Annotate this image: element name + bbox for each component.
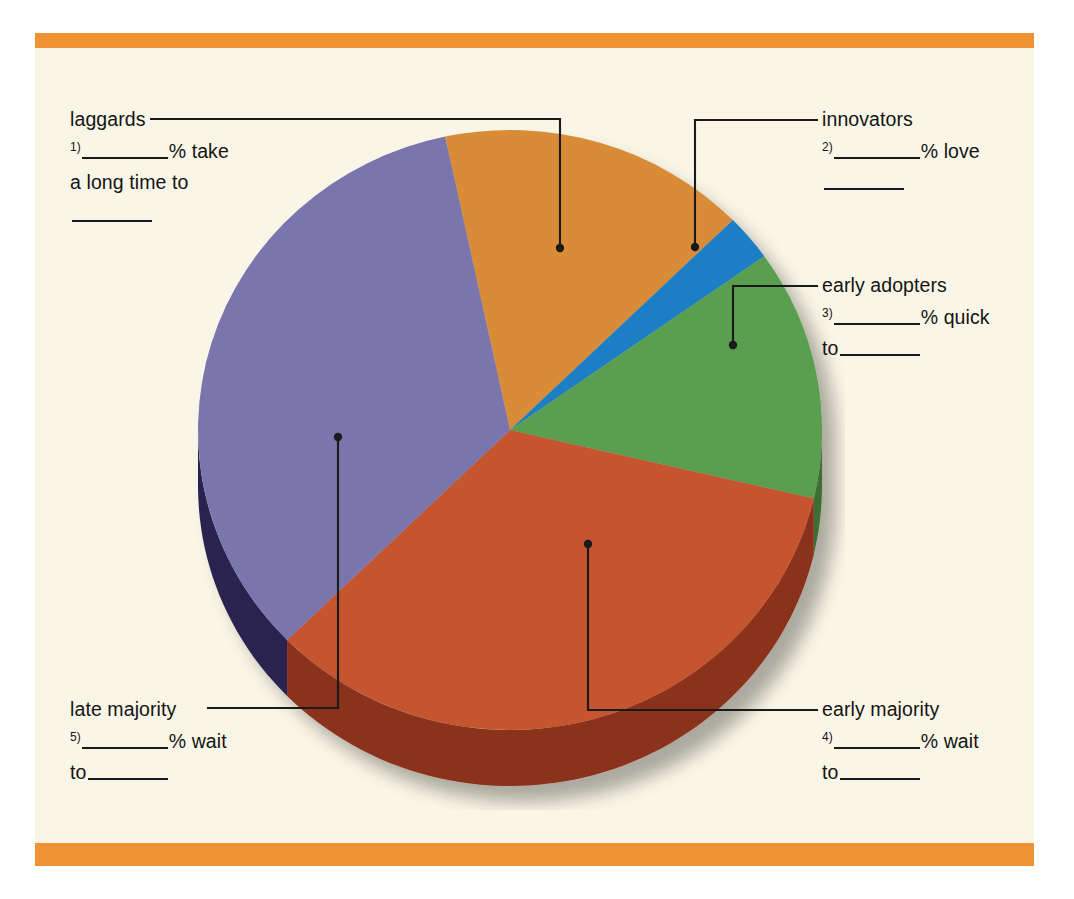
answer-blank-3[interactable] xyxy=(834,304,920,325)
callout-laggards-number: 1) xyxy=(70,139,81,153)
callout-early-majority-line1-text: % wait xyxy=(921,730,979,752)
callout-late-majority-title: late majority xyxy=(70,694,227,726)
callout-late-majority-line2: to xyxy=(70,757,227,789)
callout-early-majority-line2-prefix: to xyxy=(822,761,838,783)
answer-blank-5b[interactable] xyxy=(88,760,168,781)
callout-late-majority: late majority 5)% wait to xyxy=(70,694,227,789)
pie-top-face xyxy=(198,130,822,730)
callout-late-majority-line1-text: % wait xyxy=(169,730,227,752)
answer-blank-5[interactable] xyxy=(82,728,168,749)
answer-blank-4b[interactable] xyxy=(840,760,920,781)
answer-blank-4[interactable] xyxy=(834,728,920,749)
bottom-orange-rule xyxy=(35,843,1034,866)
callout-innovators-line3 xyxy=(822,167,980,199)
callout-laggards-title: laggards xyxy=(70,104,229,136)
answer-blank-1b[interactable] xyxy=(72,201,152,222)
top-orange-rule xyxy=(35,33,1034,48)
answer-blank-1[interactable] xyxy=(82,138,168,159)
callout-early-adopters: early adopters 3)% quick to xyxy=(822,270,990,365)
callout-laggards: laggards 1)% take a long time to xyxy=(70,104,229,230)
callout-innovators-title: innovators xyxy=(822,104,980,136)
callout-laggards-line3 xyxy=(70,199,229,231)
callout-innovators: innovators 2)% love xyxy=(822,104,980,199)
pie-chart xyxy=(185,130,845,810)
callout-early-majority-line1: 4)% wait xyxy=(822,726,979,758)
callout-late-majority-number: 5) xyxy=(70,729,81,743)
answer-blank-3b[interactable] xyxy=(840,336,920,357)
answer-blank-2b[interactable] xyxy=(824,170,904,191)
callout-early-adopters-line2-prefix: to xyxy=(822,337,838,359)
callout-late-majority-line1: 5)% wait xyxy=(70,726,227,758)
callout-innovators-line1: 2)% love xyxy=(822,136,980,168)
callout-innovators-line1-text: % love xyxy=(921,140,980,162)
callout-early-majority-title: early majority xyxy=(822,694,979,726)
worksheet-page: laggards 1)% take a long time to innovat… xyxy=(0,0,1074,899)
answer-blank-2[interactable] xyxy=(834,138,920,159)
callout-early-adopters-line1-text: % quick xyxy=(921,306,990,328)
callout-early-adopters-line1: 3)% quick xyxy=(822,302,990,334)
callout-early-adopters-number: 3) xyxy=(822,305,833,319)
callout-innovators-number: 2) xyxy=(822,139,833,153)
callout-laggards-line2: a long time to xyxy=(70,167,229,199)
callout-early-majority: early majority 4)% wait to xyxy=(822,694,979,789)
callout-early-adopters-title: early adopters xyxy=(822,270,990,302)
callout-laggards-line1-text: % take xyxy=(169,140,229,162)
callout-laggards-line1: 1)% take xyxy=(70,136,229,168)
callout-early-majority-number: 4) xyxy=(822,729,833,743)
callout-late-majority-line2-prefix: to xyxy=(70,761,86,783)
callout-early-adopters-line2: to xyxy=(822,333,990,365)
callout-early-majority-line2: to xyxy=(822,757,979,789)
